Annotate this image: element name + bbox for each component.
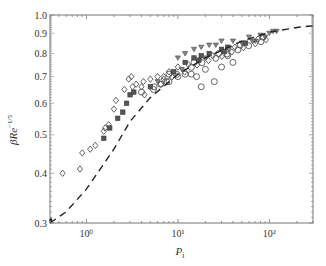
x-axis-label-sub: i (182, 251, 185, 260)
y-tick-label: 0.7 (35, 71, 48, 82)
y-tick-label: 0.6 (35, 98, 48, 109)
x-tick-label: 10⁰ (79, 228, 93, 239)
data-point-square (121, 110, 125, 114)
y-tick-label: 0.3 (35, 218, 48, 229)
x-tick-label: 10² (263, 228, 276, 239)
scatter-chart: 10⁰10¹10²0.30.40.50.60.70.80.91.0 Pi βRe… (0, 0, 326, 266)
x-axis-label: Pi (175, 245, 186, 260)
data-point-square (116, 116, 120, 120)
y-tick-label: 0.9 (35, 28, 48, 39)
y-tick-label: 0.4 (35, 168, 48, 179)
plot-frame (50, 15, 313, 223)
data-point-square (102, 136, 106, 140)
y-tick-label: 1.0 (35, 10, 48, 21)
plot-area (50, 15, 313, 223)
data-point-square (132, 90, 136, 94)
x-tick-label: 10¹ (171, 228, 184, 239)
data-point-square (124, 101, 128, 105)
y-tick-label: 0.8 (35, 48, 48, 59)
y-tick-label: 0.5 (35, 129, 48, 140)
y-axis-label: βRe−1/5 (6, 115, 19, 146)
data-point-square (108, 126, 112, 130)
